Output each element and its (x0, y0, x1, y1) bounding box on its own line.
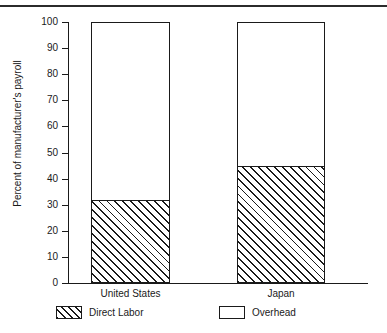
y-tick-30 (62, 205, 69, 206)
bar-segment-overhead-united-states (92, 23, 169, 200)
y-axis-title: Percent of manufacturer's payroll (12, 34, 23, 234)
legend-swatch-white-icon (219, 306, 245, 319)
y-tick-100 (62, 22, 69, 23)
legend-label-overhead: Overhead (252, 307, 296, 318)
y-tick-80 (62, 74, 69, 75)
y-tick-label-90: 90 (47, 43, 58, 53)
x-axis-line (68, 283, 368, 284)
category-label-united-states: United States (91, 288, 170, 299)
y-tick-90 (62, 48, 69, 49)
y-tick-label-60: 60 (47, 121, 58, 131)
bar-japan (237, 22, 325, 283)
y-tick-40 (62, 179, 69, 180)
y-tick-label-80: 80 (47, 69, 58, 79)
y-tick-20 (62, 231, 69, 232)
y-tick-0 (62, 283, 69, 284)
bar-segment-overhead-japan (238, 23, 324, 166)
y-tick-60 (62, 126, 69, 127)
legend-label-direct-labor: Direct Labor (89, 307, 143, 318)
y-tick-label-10: 10 (47, 252, 58, 262)
y-tick-70 (62, 100, 69, 101)
y-tick-label-100: 100 (41, 17, 58, 27)
y-tick-50 (62, 153, 69, 154)
legend-item-overhead: Overhead (219, 306, 296, 319)
category-label-japan: Japan (237, 288, 325, 299)
y-tick-label-40: 40 (47, 174, 58, 184)
y-tick-label-20: 20 (47, 226, 58, 236)
chart-figure: Percent of manufacturer's payroll 100 90… (0, 0, 387, 333)
y-tick-label-0: 0 (52, 278, 58, 288)
y-tick-label-30: 30 (47, 200, 58, 210)
chart-legend: Direct Labor Overhead (56, 306, 356, 326)
bar-united-states (91, 22, 170, 283)
page-rule (0, 5, 387, 7)
bar-segment-direct-labor-united-states (92, 200, 169, 282)
y-tick-label-50: 50 (47, 148, 58, 158)
y-tick-10 (62, 257, 69, 258)
y-tick-label-70: 70 (47, 95, 58, 105)
legend-swatch-hatched-icon (56, 306, 82, 319)
legend-item-direct-labor: Direct Labor (56, 306, 143, 319)
bar-segment-direct-labor-japan (238, 166, 324, 282)
